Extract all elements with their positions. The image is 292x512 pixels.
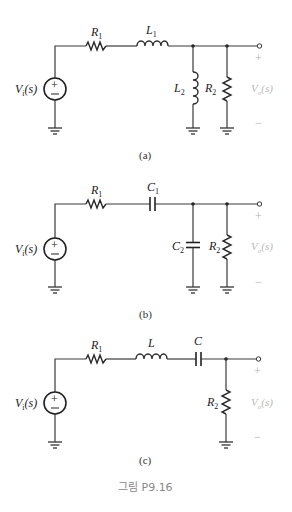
source-plus: + (51, 392, 58, 406)
output-voltage-label: Vo(s) (251, 240, 273, 255)
source-label: Vi(s) (15, 242, 37, 258)
resistor-r1-icon (86, 355, 106, 363)
c2-label: C2 (172, 239, 184, 255)
circuit-b-caption: (b) (139, 308, 152, 321)
output-terminal-icon (256, 357, 260, 361)
output-terminal-icon (257, 202, 261, 206)
circuit-a-caption: (a) (139, 149, 152, 162)
r1-label: R1 (90, 25, 102, 41)
r1-label: R1 (90, 183, 102, 199)
wire (55, 359, 86, 392)
ground-icon (48, 128, 62, 134)
output-minus: − (255, 275, 262, 289)
resistor-r1-icon (86, 42, 106, 50)
r1-label: R1 (90, 338, 102, 354)
resistor-r1-icon (86, 200, 106, 208)
resistor-r2-icon (222, 390, 230, 414)
resistor-r2-icon (223, 77, 231, 101)
output-plus: + (255, 209, 262, 223)
source-label: Vi(s) (15, 82, 37, 98)
wire (55, 46, 86, 78)
c1-label: C1 (147, 180, 159, 196)
l2-label: L2 (173, 81, 185, 97)
inductor-l1-icon (137, 41, 168, 46)
circuit-c: R1 L C R2 + Vo(s) − + Vi(s) (c) (15, 334, 273, 467)
r2-label: R2 (208, 239, 220, 255)
l1-label: L1 (145, 23, 157, 39)
source-label: Vi(s) (15, 396, 37, 412)
resistor-r2-icon (223, 235, 231, 259)
output-plus: + (254, 364, 261, 378)
r2-label: R2 (206, 395, 218, 411)
figure-caption: 그림 P9.16 (118, 481, 173, 494)
output-minus: − (255, 116, 262, 130)
source-plus: + (51, 238, 58, 252)
c-label: C (194, 334, 203, 348)
l-label: L (147, 336, 155, 350)
circuit-c-caption: (c) (139, 454, 152, 467)
ground-icon (186, 287, 200, 293)
ground-icon (220, 128, 234, 134)
ground-icon (219, 442, 233, 448)
ground-icon (48, 442, 62, 448)
source-plus: + (51, 78, 58, 92)
ground-icon (220, 287, 234, 293)
output-plus: + (255, 51, 262, 65)
output-minus: − (254, 430, 261, 444)
circuit-a: R1 L1 L2 R2 + Vo(s) − + Vi(s) (15, 23, 273, 162)
wire (55, 204, 86, 238)
output-voltage-label: Vo(s) (251, 396, 273, 411)
output-voltage-label: Vo(s) (251, 82, 273, 97)
circuit-figure: R1 L1 L2 R2 + Vo(s) − + Vi(s) (0, 0, 292, 512)
r2-label: R2 (204, 81, 216, 97)
ground-icon (186, 128, 200, 134)
circuit-b: R1 C1 C2 R2 + Vo(s) − + Vi(s) (15, 180, 273, 321)
output-terminal-icon (257, 44, 261, 48)
inductor-l-icon (136, 354, 167, 359)
inductor-l2-icon (193, 72, 198, 104)
ground-icon (48, 287, 62, 293)
